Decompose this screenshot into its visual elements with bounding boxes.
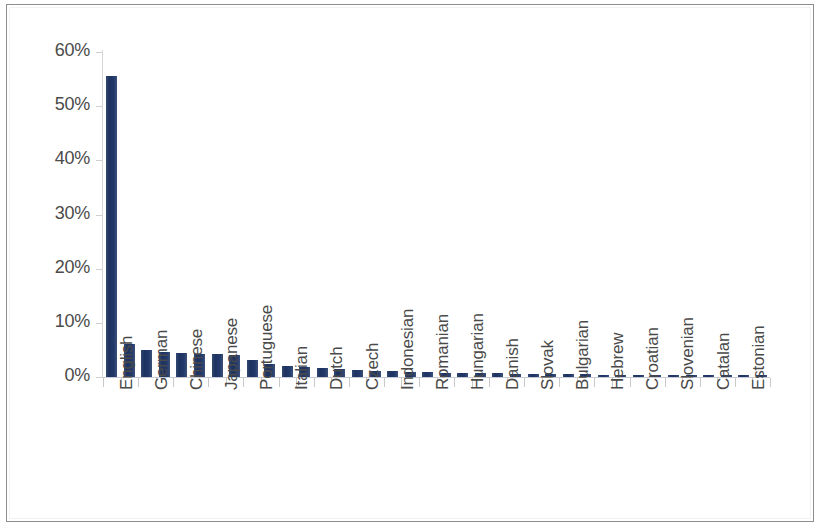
x-axis-category-label: Indonesian	[399, 309, 416, 390]
y-axis-tick-mark	[96, 52, 102, 53]
x-axis-tick-mark	[243, 378, 244, 387]
x-axis-category-label: Hebrew	[609, 333, 626, 390]
x-axis-tick-mark	[700, 378, 701, 387]
x-axis-category-label: Chinese	[188, 329, 205, 390]
bar	[141, 350, 152, 377]
x-axis-category-label: Dutch	[328, 347, 345, 390]
x-axis-category-label: Slovenian	[679, 317, 696, 390]
bar	[528, 374, 539, 377]
x-axis-tick-mark	[524, 378, 525, 387]
x-axis-tick-mark	[489, 378, 490, 387]
x-axis-tick-mark	[735, 378, 736, 387]
y-axis-tick-labels: 0%10%20%30%40%50%60%	[28, 0, 90, 529]
y-axis-tick-label: 20%	[32, 257, 90, 278]
x-axis-category-label: Estonian	[750, 325, 767, 390]
bar	[703, 375, 714, 377]
x-axis-tick-mark	[665, 378, 666, 387]
bar	[563, 374, 574, 377]
x-axis-tick-mark	[173, 378, 174, 387]
x-axis-tick-mark	[349, 378, 350, 387]
x-axis-category-label: German	[153, 330, 170, 390]
x-axis-tick-mark	[594, 378, 595, 387]
y-axis-tick-label: 60%	[32, 40, 90, 61]
y-axis-tick-mark	[96, 160, 102, 161]
y-axis-tick-label: 40%	[32, 148, 90, 169]
x-axis-category-label: Catalan	[715, 333, 732, 390]
y-axis-tick-mark	[96, 215, 102, 216]
x-axis-tick-mark	[314, 378, 315, 387]
bar	[106, 76, 117, 377]
x-axis-category-label: Italian	[293, 346, 310, 390]
x-axis-tick-mark	[384, 378, 385, 387]
y-axis-tick-label: 50%	[32, 94, 90, 115]
x-axis-tick-mark	[630, 378, 631, 387]
x-axis-tick-mark	[208, 378, 209, 387]
y-axis-tick-mark	[96, 269, 102, 270]
x-axis-tick-mark	[419, 378, 420, 387]
x-axis-category-label: Czech	[364, 343, 381, 390]
x-axis-tick-mark	[454, 378, 455, 387]
x-axis-category-label: Croatian	[644, 327, 661, 390]
x-axis-category-label: Portuguese	[258, 305, 275, 390]
y-axis-tick-mark	[96, 106, 102, 107]
x-axis-category-label: Bulgarian	[574, 320, 591, 390]
bar	[457, 373, 468, 377]
bar	[492, 373, 503, 377]
bar	[738, 375, 749, 377]
x-axis-category-label: Hungarian	[469, 313, 486, 390]
y-axis-tick-label: 30%	[32, 203, 90, 224]
x-axis-tick-mark	[279, 378, 280, 387]
x-axis-category-label: Danish	[504, 338, 521, 390]
x-axis-category-label: Slovak	[539, 340, 556, 390]
x-axis-tick-mark	[103, 378, 104, 387]
bar-chart: 0%10%20%30%40%50%60% EnglishGermanChines…	[0, 0, 821, 529]
x-axis-tick-mark	[559, 378, 560, 387]
x-axis-tick-mark	[138, 378, 139, 387]
y-axis-tick-mark	[96, 377, 102, 378]
y-axis-tick-label: 0%	[32, 365, 90, 386]
x-axis-category-labels: EnglishGermanChineseJapanesePortugueseIt…	[103, 390, 770, 520]
bar	[387, 371, 398, 377]
x-axis-category-label: Romanian	[434, 314, 451, 390]
bar	[212, 354, 223, 377]
bar	[352, 370, 363, 377]
x-axis-category-label: English	[118, 336, 135, 390]
y-axis-tick-label: 10%	[32, 311, 90, 332]
y-axis-tick-mark	[96, 323, 102, 324]
bar	[422, 372, 433, 377]
x-axis-tick-mark	[770, 378, 771, 387]
bar	[176, 353, 187, 377]
x-axis-category-label: Japanese	[223, 318, 240, 390]
